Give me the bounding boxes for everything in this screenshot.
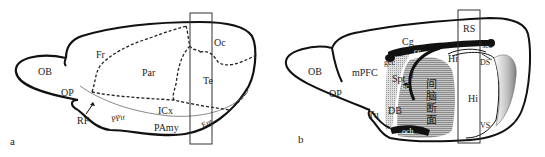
panel-a-brain-outline: [66, 22, 255, 135]
panel-a-label-par: Par: [142, 67, 156, 78]
panel-a-label-icx: ICx: [158, 105, 173, 116]
panel-a-label-rf: RF: [77, 115, 90, 126]
panel-a-rf-arrow: [86, 104, 93, 114]
panel-b-label-och: och: [402, 127, 414, 136]
panel-b-letter: b: [298, 133, 304, 145]
panel-b-label-diencephalon-3: 断: [426, 101, 437, 115]
panel-b-label-cg: Cg: [402, 36, 414, 47]
panel-a-label-pamy: PAmy: [154, 122, 179, 133]
panel-a-label-te: Te: [203, 75, 213, 86]
panel-a-label-oc: Oc: [214, 37, 226, 48]
panel-b-label-ac: ac: [402, 82, 410, 91]
panel-b-label-ob: OB: [308, 66, 322, 77]
panel-b-label-vs: VS: [480, 121, 490, 130]
panel-b-label-mpfc: mPFC: [352, 67, 378, 78]
panel-b-label-tu: Tu: [368, 109, 379, 120]
panel-b-label-diencephalon-4: 面: [426, 114, 437, 127]
panel-a-label-ob: OB: [38, 66, 52, 77]
panel-a-label-op: OP: [61, 87, 74, 98]
panel-b-olfactory-bulb-outline: [286, 47, 370, 110]
panel-b-label-f: f: [411, 71, 414, 80]
panel-b: OB OP mPFC Cg cc gcc Spt f ac DB Tu och …: [286, 10, 530, 145]
panel-b-label-hi: Hi: [468, 93, 478, 104]
panel-b-label-scc: scc: [482, 41, 493, 50]
panel-b-label-rs: RS: [463, 23, 475, 34]
panel-b-label-hi-small: Hi: [448, 53, 458, 64]
panel-a-label-fr: Fr: [96, 49, 106, 60]
panel-b-label-ds: DS: [480, 58, 490, 67]
panel-a-letter: a: [10, 135, 15, 147]
panel-b-label-cc: cc: [414, 47, 422, 56]
brain-diagram-canvas: OB Fr Par Oc Te OP ICx RF PPir PAmy Ent …: [0, 0, 545, 157]
panel-b-label-op: OP: [329, 88, 342, 99]
panel-a-dashed-boundaries: [92, 26, 254, 110]
panel-a-label-ppir: PPir: [111, 112, 127, 124]
panel-a: OB Fr Par Oc Te OP ICx RF PPir PAmy Ent …: [10, 13, 255, 147]
panel-b-label-db: DB: [388, 105, 402, 116]
panel-b-label-gcc: gcc: [384, 58, 396, 67]
